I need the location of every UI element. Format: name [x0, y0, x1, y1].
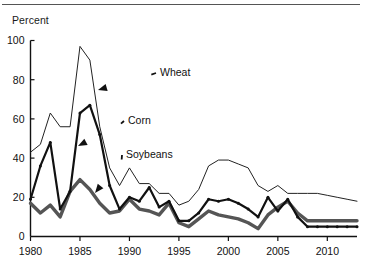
- x-tick-label: 2000: [217, 245, 241, 257]
- line-chart-plot: 020406080100 198019851990199520002005201…: [0, 0, 366, 268]
- annotation-wheat: Wheat: [98, 66, 190, 91]
- x-tick-label: 1980: [19, 245, 43, 257]
- y-tick-label: 60: [13, 113, 25, 125]
- chart-annotations: WheatCornSoybeans: [78, 66, 190, 193]
- x-tick-label: 1985: [68, 245, 92, 257]
- x-tick-label: 2010: [316, 245, 340, 257]
- x-tick-label: 2005: [266, 245, 290, 257]
- series-soybeans: [31, 180, 358, 229]
- y-tick-label: 80: [13, 74, 25, 86]
- chart-axes: [31, 41, 358, 237]
- annotation-corn: Corn: [78, 114, 151, 146]
- y-tick-label: 0: [19, 230, 25, 242]
- annotation-label: Wheat: [160, 66, 190, 78]
- annotation-label: Corn: [128, 114, 151, 126]
- y-tick-label: 20: [13, 191, 25, 203]
- chart-figure: Percent 020406080100 1980198519901995200…: [0, 0, 366, 268]
- y-tick-label: 100: [7, 34, 25, 46]
- x-tick-label: 1990: [118, 245, 142, 257]
- series-corn: [29, 104, 359, 229]
- annotation-label: Soybeans: [126, 148, 173, 160]
- y-tick-label: 40: [13, 152, 25, 164]
- x-axis-ticks: 1980198519901995200020052010: [19, 237, 339, 257]
- x-tick-label: 1995: [167, 245, 191, 257]
- chart-series-group: [29, 46, 359, 228]
